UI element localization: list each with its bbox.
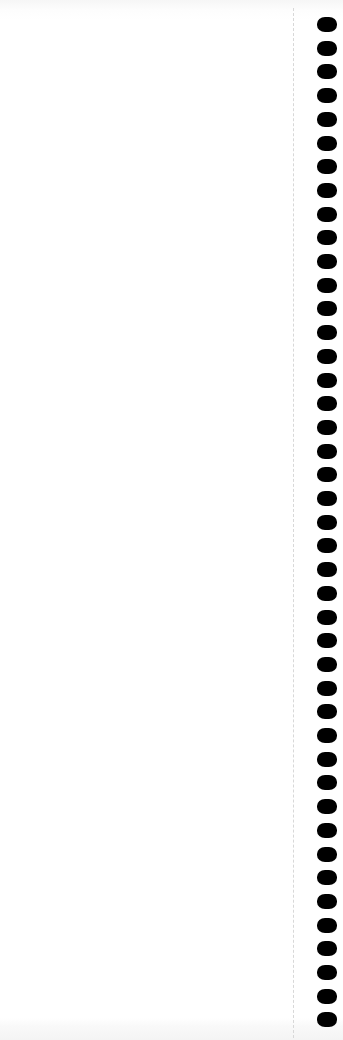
binding-hole <box>317 159 337 174</box>
binding-hole <box>317 396 337 411</box>
binding-hole <box>317 681 337 696</box>
binding-hole <box>317 64 337 79</box>
binding-hole <box>317 894 337 909</box>
binding-hole <box>317 515 337 530</box>
notebook-page <box>0 0 343 1040</box>
binding-hole <box>317 136 337 151</box>
binding-hole <box>317 633 337 648</box>
binding-hole <box>317 586 337 601</box>
binding-hole <box>317 870 337 885</box>
binding-hole <box>317 562 337 577</box>
binding-hole <box>317 941 337 956</box>
binding-hole <box>317 728 337 743</box>
binding-hole <box>317 965 337 980</box>
binding-hole <box>317 491 337 506</box>
binding-hole <box>317 112 337 127</box>
binding-hole <box>317 752 337 767</box>
binding-hole <box>317 775 337 790</box>
binding-hole <box>317 610 337 625</box>
binding-hole <box>317 1012 337 1027</box>
binding-hole <box>317 230 337 245</box>
binding-hole <box>317 847 337 862</box>
binding-hole <box>317 799 337 814</box>
binding-hole <box>317 325 337 340</box>
perforation-line <box>293 8 294 1038</box>
binding-hole <box>317 17 337 32</box>
binding-hole <box>317 918 337 933</box>
binding-hole <box>317 467 337 482</box>
binding-hole <box>317 301 337 316</box>
binding-hole <box>317 420 337 435</box>
binding-hole <box>317 444 337 459</box>
binding-hole <box>317 704 337 719</box>
binding-hole <box>317 207 337 222</box>
binding-hole <box>317 278 337 293</box>
binding-hole <box>317 88 337 103</box>
binding-hole <box>317 254 337 269</box>
binding-hole <box>317 657 337 672</box>
binding-hole <box>317 41 337 56</box>
binding-hole <box>317 989 337 1004</box>
binding-hole <box>317 373 337 388</box>
binding-hole <box>317 349 337 364</box>
binding-hole <box>317 183 337 198</box>
binding-hole <box>317 823 337 838</box>
binding-hole <box>317 538 337 553</box>
